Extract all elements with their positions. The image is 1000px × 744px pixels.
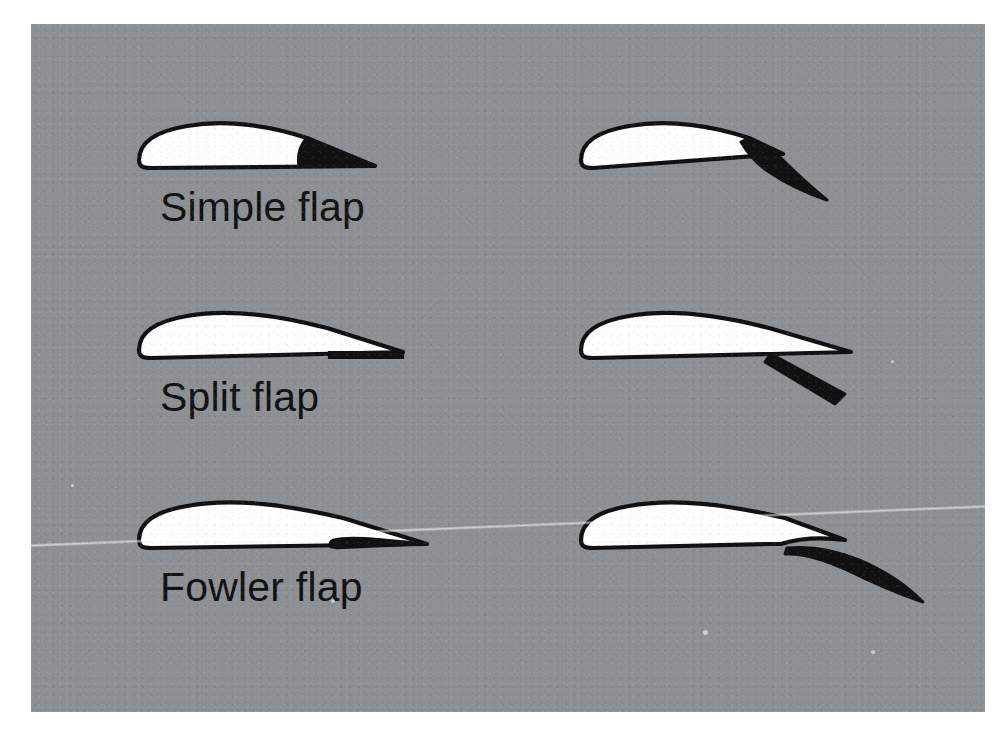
scan-speck bbox=[71, 484, 74, 487]
fowler-flap-retracted-airfoil: Fowler flap retracted bbox=[131, 492, 441, 562]
fowler-flap-label: Fowler flap bbox=[160, 567, 363, 608]
split-flap-label: Split flap bbox=[160, 377, 319, 418]
split-flap-deployed-airfoil: Split flap deflected bbox=[573, 302, 873, 412]
scanned-figure-plate: Simple flap retracted Simple flap deflec… bbox=[31, 24, 985, 712]
page-canvas: Simple flap retracted Simple flap deflec… bbox=[0, 0, 1000, 744]
fowler-flap-deployed-airfoil: Fowler flap extended and deflected bbox=[573, 492, 933, 622]
split-flap-retracted-airfoil: Split flap retracted bbox=[131, 302, 421, 372]
scan-speck bbox=[703, 630, 708, 635]
scan-speck bbox=[871, 650, 875, 654]
simple-flap-deployed-airfoil: Simple flap deflected bbox=[573, 112, 863, 212]
scan-speck bbox=[891, 360, 894, 363]
simple-flap-label: Simple flap bbox=[160, 187, 365, 228]
simple-flap-retracted-airfoil: Simple flap retracted bbox=[131, 112, 391, 182]
